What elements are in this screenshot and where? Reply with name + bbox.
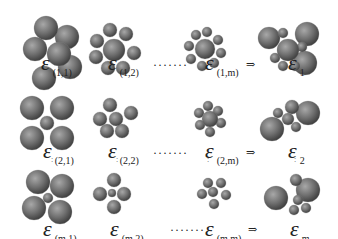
label-eps-2-m: ε(2,m) [205, 140, 239, 162]
label-eps-m-1: ε(m,1) [43, 218, 77, 239]
label-eps-1-m: ε(1,m) [205, 52, 239, 74]
vertical-ellipsis-col-1: : [51, 157, 53, 162]
arrow-row-2: ⇒ [246, 146, 255, 159]
horizontal-ellipsis-row-3: ······· [170, 223, 205, 238]
label-eps-result-m: εm [290, 218, 309, 239]
horizontal-ellipsis-row-2: ······· [153, 146, 188, 161]
vertical-ellipsis-col-2: : [116, 157, 118, 162]
label-eps-1-2: ε(1,2) [108, 52, 139, 74]
cluster-result-m [264, 172, 324, 222]
label-eps-m-m: ε(m,m) [205, 218, 241, 239]
arrow-row-3: ⇒ [248, 223, 257, 236]
label-eps-1-1: ε(1,1) [41, 52, 72, 74]
label-eps-result-2: ε2 [288, 140, 305, 162]
label-eps-2-1: ε(2,1) [43, 140, 74, 162]
cluster-m-2 [92, 172, 140, 218]
label-eps-m-2: ε(m,2) [110, 218, 144, 239]
label-eps-2-2: ε(2,2) [108, 140, 139, 162]
vertical-ellipsis-col-m: : [207, 157, 209, 162]
arrow-row-1: ⇒ [246, 58, 255, 71]
label-eps-result-1: ε1 [288, 52, 305, 74]
vertical-ellipsis-col-result: : [294, 157, 296, 162]
cluster-m-m [196, 177, 236, 213]
cluster-2-m [194, 101, 234, 141]
